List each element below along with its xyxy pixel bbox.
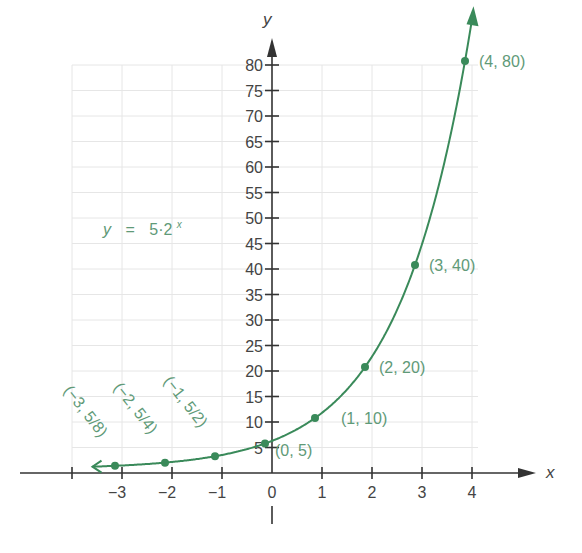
y-tick-label: 25 [245, 338, 263, 355]
y-axis-arrow-icon [267, 38, 277, 57]
equation-exponent: x [176, 219, 183, 230]
exponential-curve [93, 23, 472, 467]
data-point [111, 462, 119, 470]
data-point [161, 459, 169, 467]
y-axis-ticks: 5101520253035404550556065707580 [245, 57, 279, 457]
point-label: (−3, 5/8) [61, 382, 111, 440]
data-point [311, 414, 319, 422]
x-tick-label: 1 [318, 484, 327, 501]
x-tick-label: −2 [158, 484, 176, 501]
x-axis-ticks: −3−2−101234 [72, 467, 477, 501]
point-label: (1, 10) [341, 410, 387, 427]
y-tick-label: 45 [245, 236, 263, 253]
x-tick-label: 2 [368, 484, 377, 501]
x-tick-label: 3 [418, 484, 427, 501]
data-point [361, 363, 369, 371]
y-tick-label: 40 [245, 261, 263, 278]
y-tick-label: 65 [245, 134, 263, 151]
y-tick-label: 30 [245, 312, 263, 329]
x-axis-label: x [545, 463, 555, 482]
y-tick-label: 10 [245, 414, 263, 431]
curve-up-arrow-icon [467, 6, 479, 26]
x-tick-label: 0 [268, 484, 277, 501]
data-point [211, 452, 219, 460]
y-tick-label: 15 [245, 389, 263, 406]
equation-label: y = 5·2 x [102, 219, 183, 238]
y-tick-label: 55 [245, 185, 263, 202]
exponential-graph: x y −3−2−101234 510152025303540455055606… [0, 0, 582, 553]
point-label: (4, 80) [479, 53, 525, 70]
x-tick-label: 4 [468, 484, 477, 501]
y-tick-label: 35 [245, 287, 263, 304]
point-label: (2, 20) [379, 359, 425, 376]
point-label: (0, 5) [275, 442, 312, 459]
point-label: (3, 40) [429, 257, 475, 274]
y-axis-label: y [262, 10, 273, 29]
y-tick-label: 60 [245, 159, 263, 176]
y-tick-label: 80 [245, 57, 263, 74]
data-point [461, 57, 469, 65]
equation-y: y [102, 221, 112, 238]
data-point [411, 261, 419, 269]
x-tick-label: −1 [208, 484, 226, 501]
data-point [261, 440, 269, 448]
y-tick-label: 50 [245, 210, 263, 227]
y-tick-label: 75 [245, 83, 263, 100]
equation-base: 5·2 [149, 221, 172, 238]
equation-equals: = [125, 221, 134, 238]
y-tick-label: 20 [245, 363, 263, 380]
point-label: (−2, 5/4) [111, 379, 161, 437]
x-tick-label: −3 [108, 484, 126, 501]
x-axis-arrow-icon [518, 468, 536, 478]
y-tick-label: 70 [245, 108, 263, 125]
curve-series [93, 6, 479, 472]
